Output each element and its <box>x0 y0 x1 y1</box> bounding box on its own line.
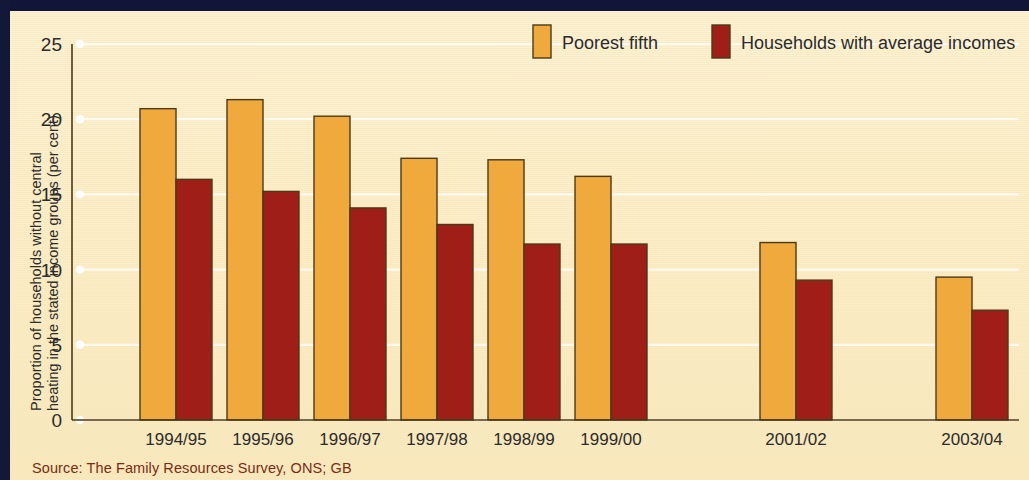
x-axis-category-label: 2001/02 <box>765 430 826 449</box>
legend-swatch <box>712 25 730 58</box>
category-label-group: 1994/951995/961996/971997/981998/991999/… <box>145 430 1002 449</box>
y-axis-title-group: Proportion of households without central… <box>28 115 61 411</box>
legend-label: Poorest fifth <box>562 33 658 53</box>
y-axis-title-line1: Proportion of households without central <box>28 152 44 411</box>
bar <box>936 277 972 420</box>
bar <box>401 158 437 420</box>
bar <box>796 280 832 420</box>
bar <box>227 100 263 420</box>
bar-chart: 0510152025 1994/951995/961996/971997/981… <box>10 11 1029 480</box>
left-navy-rail <box>0 0 10 480</box>
x-axis-category-label: 2003/04 <box>941 430 1002 449</box>
x-axis-category-label: 1998/99 <box>493 430 554 449</box>
source-note: Source: The Family Resources Survey, ONS… <box>32 460 352 476</box>
y-axis-tick-dot <box>76 115 84 123</box>
y-axis-tick-label: 25 <box>41 34 62 55</box>
y-axis-tick-dot <box>76 190 84 198</box>
x-axis-category-label: 1997/98 <box>406 430 467 449</box>
bar <box>972 310 1008 420</box>
x-axis-category-label: 1999/00 <box>580 430 641 449</box>
bar <box>350 208 386 420</box>
y-axis-tick-dot <box>76 341 84 349</box>
x-axis-category-label: 1995/96 <box>232 430 293 449</box>
ytick-dot-group <box>76 40 84 424</box>
bar <box>488 160 524 420</box>
legend: Poorest fifthHouseholds with average inc… <box>533 25 1015 58</box>
y-axis-tick-dot <box>76 40 84 48</box>
x-axis-category-label: 1996/97 <box>319 430 380 449</box>
bar <box>140 109 176 420</box>
bar <box>314 116 350 420</box>
bar <box>176 179 212 420</box>
bar <box>263 191 299 420</box>
top-navy-band <box>0 0 1029 11</box>
bar-group <box>140 100 1008 420</box>
figure-root: 0510152025 1994/951995/961996/971997/981… <box>0 0 1029 480</box>
bar <box>524 244 560 420</box>
legend-label: Households with average incomes <box>741 33 1015 53</box>
y-axis-tick-dot <box>76 265 84 273</box>
bar <box>611 244 647 420</box>
legend-swatch <box>533 25 551 58</box>
bar <box>575 176 611 420</box>
bar <box>760 243 796 420</box>
chart-plate: 0510152025 1994/951995/961996/971997/981… <box>10 11 1029 480</box>
y-axis-title-line2: heating in the stated income groups (per… <box>45 115 61 411</box>
x-axis-category-label: 1994/95 <box>145 430 206 449</box>
y-axis-tick-label: 0 <box>51 410 62 431</box>
bar <box>437 224 473 420</box>
